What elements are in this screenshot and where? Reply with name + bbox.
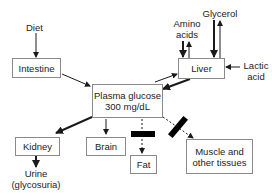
kidney-box: Kidney [15, 137, 60, 156]
urine-line2: (glycosuria) [10, 179, 62, 190]
plasma-glucose-line2: 300 mg/dL [105, 101, 150, 112]
lactic-acid-line2: acid [242, 71, 270, 82]
block-bar-fat [131, 131, 155, 137]
amino-acids-label: Amino acids [172, 18, 202, 40]
intestine-label: Intestine [19, 63, 55, 74]
lactic-acid-label: Lactic acid [242, 60, 270, 82]
urine-label: Urine (glycosuria) [10, 168, 62, 190]
arrow-plasma-kidney [56, 117, 92, 133]
kidney-label: Kidney [23, 141, 52, 152]
muscle-box: Muscle and other tissues [186, 139, 253, 174]
diet-label: Diet [26, 22, 43, 33]
muscle-line2: other tissues [193, 157, 247, 168]
muscle-line1: Muscle and [195, 146, 244, 157]
arrow-intestine-plasma [62, 74, 90, 86]
amino-acids-line2: acids [172, 29, 202, 40]
liver-box: Liver [178, 58, 225, 79]
plasma-glucose-line1: Plasma glucose [94, 90, 161, 101]
brain-label: Brain [95, 141, 117, 152]
arrow-liver-plasma [163, 79, 190, 89]
lactic-acid-line1: Lactic [242, 60, 270, 71]
fat-label: Fat [137, 159, 151, 170]
liver-label: Liver [191, 63, 212, 74]
intestine-box: Intestine [12, 58, 61, 78]
plasma-glucose-box: Plasma glucose 300 mg/dL [92, 84, 163, 118]
glycerol-label: Glycerol [200, 8, 240, 19]
arrow-plasma-liver [155, 74, 177, 82]
fat-box: Fat [130, 155, 157, 174]
brain-box: Brain [86, 137, 126, 156]
amino-acids-line1: Amino [172, 18, 202, 29]
urine-line1: Urine [10, 168, 62, 179]
glucose-metabolism-diagram: Diet Amino acids Glycerol Lactic acid Ur… [0, 0, 272, 196]
block-bar-muscle [168, 116, 188, 138]
